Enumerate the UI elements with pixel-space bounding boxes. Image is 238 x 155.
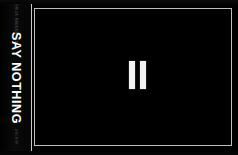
pause-bar-right [140, 61, 146, 89]
book-front-cover [34, 8, 232, 146]
book-spine: PATRICK RADDEN KEEFE SAY NOTHING ANCHOR [0, 4, 32, 151]
pause-bar-left [129, 61, 135, 89]
spine-title-text: SAY NOTHING [9, 31, 22, 123]
book-scene: PATRICK RADDEN KEEFE SAY NOTHING ANCHOR [0, 0, 238, 155]
pause-icon [129, 61, 146, 89]
spine-publisher-text: ANCHOR [14, 129, 18, 145]
